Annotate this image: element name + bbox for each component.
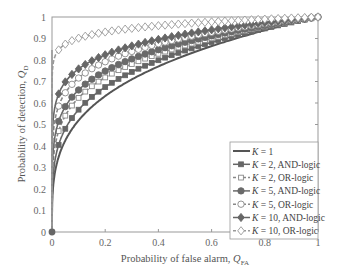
x-tick-label: 0: [50, 237, 55, 248]
x-axis-label: Probability of false alarm, QFA: [121, 253, 249, 267]
roc-chart: 00.20.40.60.8100.10.20.30.40.50.60.70.80…: [0, 0, 338, 277]
y-tick-label: 1: [41, 12, 46, 23]
x-tick-label: 0.2: [99, 237, 112, 248]
legend: K = 1K = 2, AND-logicK = 2, OR-logicK = …: [230, 142, 325, 239]
svg-text:K = 1: K = 1: [251, 147, 273, 157]
y-tick-label: 0.4: [34, 141, 47, 152]
svg-text:K = 10, AND-logic: K = 10, AND-logic: [251, 213, 325, 223]
y-tick-label: 0.2: [34, 184, 47, 195]
y-tick-label: 0.7: [34, 76, 47, 87]
x-tick-label: 0.6: [205, 237, 218, 248]
y-tick-label: 0.3: [34, 162, 47, 173]
y-tick-label: 0.8: [34, 55, 47, 66]
x-tick-label: 0.4: [152, 237, 165, 248]
svg-text:K = 10, OR-logic: K = 10, OR-logic: [251, 226, 318, 236]
svg-text:K = 5, AND-logic: K = 5, AND-logic: [251, 186, 320, 196]
y-tick-label: 0.9: [34, 33, 47, 44]
svg-text:K = 2, OR-logic: K = 2, OR-logic: [251, 173, 313, 183]
y-tick-label: 0.5: [34, 119, 47, 130]
y-tick-label: 0.6: [34, 98, 47, 109]
svg-text:K = 5, OR-logic: K = 5, OR-logic: [251, 200, 313, 210]
y-tick-label: 0.1: [34, 205, 47, 216]
y-axis-label: Probability of detection, QD: [16, 65, 30, 182]
y-tick-label: 0: [41, 227, 46, 238]
svg-text:K = 2, AND-logic: K = 2, AND-logic: [251, 160, 320, 170]
